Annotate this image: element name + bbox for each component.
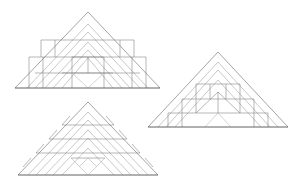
outer-triangle-a — [15, 12, 160, 88]
chevron-band-1b-a — [35, 32, 140, 88]
chevron-band-2-b — [45, 130, 131, 175]
rhombus-bar-br2 — [119, 130, 127, 139]
chevron-band-2b-a — [53, 50, 122, 88]
figure-bottom-left — [18, 102, 158, 175]
triangle-tiling-figure-canvas — [0, 0, 300, 185]
outer-triangle-b — [18, 102, 158, 175]
chevron-band-2b-b — [53, 138, 123, 175]
chevron-band-1-b — [28, 112, 148, 175]
rhombus-bar-bl3 — [36, 144, 44, 153]
outer-triangle-c — [148, 52, 288, 127]
core-chevron-b2 — [79, 158, 97, 167]
rhombus-bar-br3 — [132, 144, 140, 153]
figure-top-left — [15, 12, 160, 88]
chevron-band-3-b — [62, 148, 114, 175]
rhombus-bar-bl2 — [49, 130, 57, 139]
rhombus-bar-br1 — [106, 116, 114, 125]
figure-right — [148, 52, 288, 127]
chevron-band-2-a — [45, 42, 130, 88]
core-chevron-c2 — [205, 113, 231, 127]
chevron-band-1b-b — [36, 120, 140, 175]
core-chevron-a — [72, 73, 104, 88]
rhombus-bar-bl1 — [62, 116, 70, 125]
